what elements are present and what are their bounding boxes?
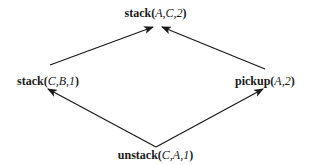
node-unstack-c-a-1: unstack(C,A,1) xyxy=(0,148,311,162)
edge-right-to-top xyxy=(162,27,265,69)
node-fn: pickup xyxy=(235,74,270,88)
node-fn: stack xyxy=(17,74,44,88)
edge-bottom-to-left xyxy=(48,89,156,147)
node-args: C,A,1 xyxy=(162,148,189,162)
edge-bottom-to-right xyxy=(156,89,263,147)
node-fn: stack xyxy=(124,6,151,20)
node-args: A,2 xyxy=(274,74,290,88)
node-fn: unstack xyxy=(118,148,158,162)
node-stack-c-b-1: stack(C,B,1) xyxy=(17,74,79,88)
node-args: A,C,2 xyxy=(155,6,182,20)
node-pickup-a-2: pickup(A,2) xyxy=(235,74,295,88)
node-args: C,B,1 xyxy=(48,74,75,88)
node-stack-a-c-2: stack(A,C,2) xyxy=(0,6,311,20)
edge-left-to-top xyxy=(50,27,153,65)
